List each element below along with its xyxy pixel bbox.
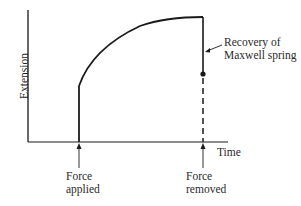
- force-applied-label-line2: applied: [66, 183, 100, 196]
- recovery-label-line1: Recovery of: [224, 36, 281, 49]
- recovery-arrowhead-icon: [205, 48, 210, 53]
- diagram-canvas: [0, 0, 301, 206]
- force-removed-label-line2: removed: [186, 183, 226, 196]
- force-applied-arrowhead-icon: [77, 143, 82, 149]
- recovery-label-line2: Maxwell spring: [224, 49, 297, 62]
- force-removed-arrowhead-icon: [201, 143, 206, 149]
- force-removed-label-line1: Force: [186, 170, 212, 183]
- x-axis-label: Time: [217, 146, 241, 159]
- force-applied-label-line1: Force: [66, 170, 92, 183]
- creep-curve: [79, 17, 203, 86]
- recovery-point: [200, 71, 205, 76]
- y-axis-label: Extension: [18, 46, 30, 106]
